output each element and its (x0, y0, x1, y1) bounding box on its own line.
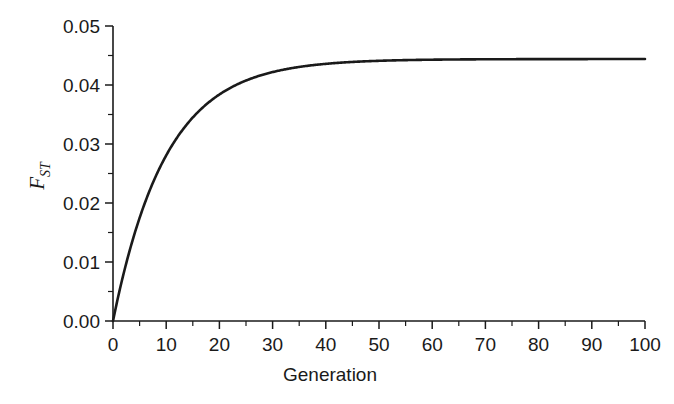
y-tick-label: 0.01 (63, 252, 100, 273)
x-tick-label: 100 (629, 334, 661, 355)
fst-generation-line-chart: 0.000.010.020.030.040.05 010203040506070… (0, 0, 674, 404)
x-tick-label: 80 (528, 334, 549, 355)
x-tick-label: 50 (368, 334, 389, 355)
x-tick-label: 0 (108, 334, 119, 355)
x-tick-label: 70 (475, 334, 496, 355)
y-axis-title-subscript: ST (38, 161, 53, 177)
x-tick-label: 90 (581, 334, 602, 355)
y-tick-label: 0.03 (63, 134, 100, 155)
x-tick-label: 10 (156, 334, 177, 355)
x-tick-label: 40 (315, 334, 336, 355)
y-axis-title-main: F (25, 177, 49, 191)
x-axis-title: Generation (283, 364, 377, 385)
y-tick-label: 0.05 (63, 16, 100, 37)
y-tick-label: 0.00 (63, 311, 100, 332)
chart-background (0, 0, 674, 404)
x-tick-label: 60 (422, 334, 443, 355)
y-tick-label: 0.02 (63, 193, 100, 214)
y-tick-label: 0.04 (63, 75, 100, 96)
chart-figure: 0.000.010.020.030.040.05 010203040506070… (0, 0, 674, 404)
x-tick-label: 30 (262, 334, 283, 355)
x-tick-label: 20 (209, 334, 230, 355)
